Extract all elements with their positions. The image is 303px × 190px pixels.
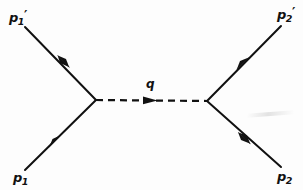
label-q: q (146, 78, 155, 90)
label-p1-prime-base: p (9, 10, 18, 25)
label-p2-base: p (277, 169, 286, 184)
leg-line-p2 (207, 101, 281, 167)
label-p1-prime-mark: ′ (24, 7, 27, 22)
feynman-diagram: p1′ p1 p2′ p2 q (0, 0, 303, 190)
label-p2: p2 (277, 170, 293, 183)
label-p2-prime-base: p (277, 7, 286, 22)
leg-line-p2-prime (207, 26, 281, 101)
label-p1-subscript: 1 (22, 176, 29, 187)
label-p2-subscript: 2 (286, 175, 293, 186)
label-p1: p1 (13, 171, 29, 184)
label-p2-prime-mark: ′ (292, 4, 295, 19)
label-p1-base: p (13, 170, 22, 185)
label-p2-prime: p2′ (277, 8, 296, 21)
leg-line-p1-prime (25, 27, 96, 100)
label-p1-prime: p1′ (9, 11, 28, 24)
leg-line-p1 (25, 100, 96, 170)
diagram-canvas (0, 0, 303, 190)
arrow-q-icon (143, 97, 158, 105)
